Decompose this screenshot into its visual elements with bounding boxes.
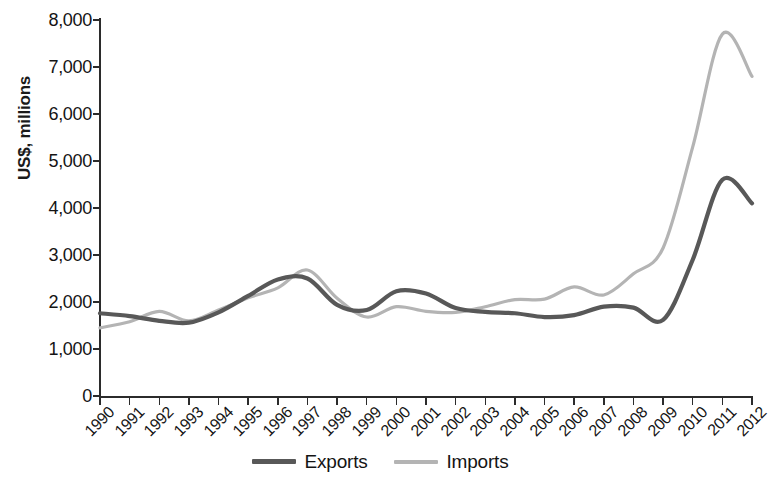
- y-axis-tick-label: 6,000: [28, 105, 92, 123]
- y-axis-tick-mark: [93, 207, 100, 209]
- legend-item-exports[interactable]: Exports: [252, 452, 368, 471]
- legend-swatch-imports: [394, 460, 438, 464]
- y-axis-tick-mark: [93, 301, 100, 303]
- x-axis-tick-mark: [336, 397, 337, 405]
- y-axis-tick-mark: [93, 254, 100, 256]
- y-axis-tick-mark: [93, 160, 100, 162]
- series-line-imports: [100, 32, 752, 328]
- chart-legend: ExportsImports: [0, 452, 760, 471]
- x-axis-tick-mark: [514, 397, 515, 405]
- y-axis-tick-label: 7,000: [28, 58, 92, 76]
- x-axis-tick-mark: [99, 397, 100, 405]
- series-line-exports: [100, 178, 752, 323]
- x-axis-tick-mark: [366, 397, 367, 405]
- x-axis-tick-mark: [396, 397, 397, 405]
- y-axis-tick-label: 4,000: [28, 199, 92, 217]
- x-axis-tick-mark: [425, 397, 426, 405]
- legend-label-imports: Imports: [447, 452, 509, 471]
- x-axis-tick-mark: [662, 397, 663, 405]
- y-axis-tick-label: 1,000: [28, 340, 92, 358]
- y-axis-tick-label: 8,000: [28, 11, 92, 29]
- x-axis-tick-mark: [159, 397, 160, 405]
- y-axis-tick-label: 0: [28, 387, 92, 405]
- y-axis-tick-mark: [93, 348, 100, 350]
- x-axis-tick-mark: [247, 397, 248, 405]
- legend-label-exports: Exports: [305, 452, 368, 471]
- y-axis-tick-label: 3,000: [28, 246, 92, 264]
- x-axis-tick-mark: [277, 397, 278, 405]
- x-axis-tick-mark: [455, 397, 456, 405]
- legend-item-imports[interactable]: Imports: [394, 452, 509, 471]
- legend-swatch-exports: [252, 459, 296, 464]
- x-axis-tick-mark: [692, 397, 693, 405]
- x-axis-tick-mark: [603, 397, 604, 405]
- x-axis-tick-mark: [485, 397, 486, 405]
- y-axis-tick-mark: [93, 113, 100, 115]
- x-axis-tick-mark: [633, 397, 634, 405]
- y-axis-tick-label: 5,000: [28, 152, 92, 170]
- x-axis-tick-mark: [722, 397, 723, 405]
- y-axis-tick-mark: [93, 66, 100, 68]
- plot-area: [100, 20, 752, 396]
- y-axis-tick-label: 2,000: [28, 293, 92, 311]
- x-axis-tick-mark: [188, 397, 189, 405]
- x-axis-tick-mark: [573, 397, 574, 405]
- y-axis-tick-labels: 8,0007,0006,0005,0004,0003,0002,0001,000…: [0, 0, 92, 479]
- x-axis-tick-mark: [751, 397, 752, 405]
- x-axis-tick-mark: [129, 397, 130, 405]
- x-axis-tick-mark: [218, 397, 219, 405]
- x-axis-tick-mark: [307, 397, 308, 405]
- y-axis-tick-mark: [93, 19, 100, 21]
- x-axis-tick-mark: [544, 397, 545, 405]
